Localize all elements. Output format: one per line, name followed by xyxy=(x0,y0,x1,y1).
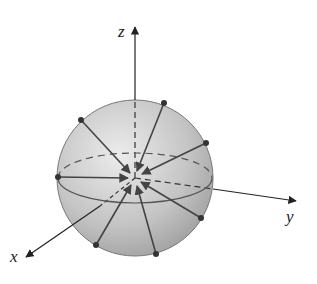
y-axis xyxy=(213,189,296,201)
y-axis-label: y xyxy=(284,207,294,226)
arrow-4 xyxy=(58,177,128,178)
z-axis-label: z xyxy=(117,22,125,41)
point-4 xyxy=(55,174,61,180)
figure: z y x xyxy=(0,0,317,284)
point-1 xyxy=(78,117,84,123)
x-axis-label: x xyxy=(9,247,18,266)
sphere-diagram: z y x xyxy=(0,0,317,284)
point-6 xyxy=(93,242,99,248)
point-5 xyxy=(198,215,204,221)
point-2 xyxy=(161,100,167,106)
point-3 xyxy=(203,140,209,146)
point-7 xyxy=(153,251,159,257)
